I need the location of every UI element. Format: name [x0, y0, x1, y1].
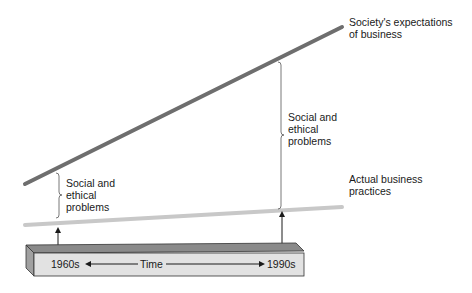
gap-brace-1990s	[278, 62, 284, 209]
diagram-canvas	[0, 0, 472, 293]
gap-label-1960s: Social and ethical problems	[66, 177, 115, 213]
expectations-line	[25, 27, 342, 184]
expectations-label: Society's expectations of business	[349, 16, 453, 40]
gap-label-1990s: Social and ethical problems	[288, 111, 337, 147]
timeline-end-label: 1990s	[267, 258, 296, 270]
timeline-start-label: 1960s	[51, 258, 80, 270]
practices-label: Actual business practices	[349, 173, 423, 197]
gap-brace-1960s	[56, 173, 62, 218]
timeline-middle-label: Time	[140, 258, 163, 270]
timeline-bar-top	[26, 243, 304, 253]
